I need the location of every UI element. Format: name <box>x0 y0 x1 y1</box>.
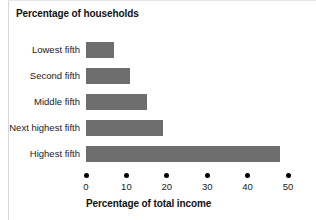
category-label: Next highest fifth <box>9 120 80 136</box>
x-tick-label: 10 <box>111 181 141 192</box>
x-tick-label: 40 <box>233 181 263 192</box>
x-tick-marker <box>286 173 291 178</box>
x-tick-label: 50 <box>273 181 303 192</box>
bar-row: Second fifth <box>86 68 288 84</box>
bar <box>86 120 163 136</box>
bar <box>86 42 114 58</box>
x-tick-label: 20 <box>152 181 182 192</box>
x-tick-label: 0 <box>71 181 101 192</box>
category-label: Lowest fifth <box>32 42 80 58</box>
category-label: Middle fifth <box>34 94 80 110</box>
x-tick-marker <box>245 173 250 178</box>
bar-row: Middle fifth <box>86 94 288 110</box>
bar <box>86 94 147 110</box>
bar-row: Next highest fifth <box>86 120 288 136</box>
x-tick-marker <box>84 173 89 178</box>
page-top-line <box>8 0 316 1</box>
x-tick-marker <box>164 173 169 178</box>
x-tick-label: 30 <box>192 181 222 192</box>
category-label: Highest fifth <box>30 146 80 162</box>
bar-chart: Percentage of households Lowest fifthSec… <box>0 0 316 220</box>
bar <box>86 68 130 84</box>
page-edge-line <box>8 0 9 220</box>
bar <box>86 146 280 162</box>
bar-row: Highest fifth <box>86 146 288 162</box>
bar-row: Lowest fifth <box>86 42 288 58</box>
x-tick-marker <box>124 173 129 178</box>
plot-area: Lowest fifthSecond fifthMiddle fifthNext… <box>86 42 288 177</box>
x-axis-title: Percentage of total income <box>86 198 316 209</box>
y-axis-title: Percentage of households <box>16 8 166 20</box>
category-label: Second fifth <box>30 68 80 84</box>
x-tick-marker <box>205 173 210 178</box>
